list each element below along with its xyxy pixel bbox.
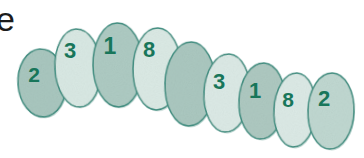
tooth-diagram-canvas: 23183182 bbox=[0, 0, 364, 158]
tooth-number-label: 2 bbox=[318, 86, 330, 111]
tooth-diagram-figure: 23183182 e bbox=[0, 0, 364, 158]
tooth-number-label: 1 bbox=[104, 33, 117, 59]
tooth-number-label: 8 bbox=[282, 88, 294, 111]
clipped-letter-text: e bbox=[0, 2, 15, 36]
tooth-number-label: 1 bbox=[249, 78, 261, 103]
tooth-number-label: 3 bbox=[213, 69, 225, 94]
tooth-number-label: 3 bbox=[64, 38, 76, 63]
tooth-labeled-2 bbox=[307, 72, 357, 151]
tooth-number-label: 8 bbox=[143, 37, 155, 62]
tooth-number-label: 2 bbox=[28, 63, 40, 86]
